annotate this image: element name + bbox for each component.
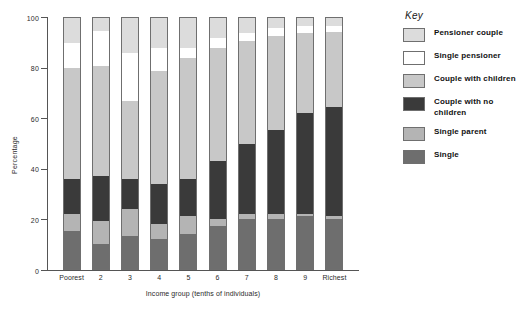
stacked-bar[interactable] bbox=[209, 17, 227, 270]
bar-slot bbox=[115, 17, 144, 270]
bar-segment bbox=[326, 32, 342, 107]
y-axis-title: Percentage bbox=[11, 136, 18, 174]
stacked-bar[interactable] bbox=[267, 17, 285, 270]
bar-segment bbox=[268, 28, 284, 36]
y-axis-tick-label: 80 bbox=[31, 65, 39, 72]
bar-segment bbox=[93, 221, 109, 244]
x-axis-line bbox=[47, 270, 359, 271]
bar-segment bbox=[93, 18, 109, 31]
y-axis-tick-label: 20 bbox=[31, 216, 39, 223]
bar-segment bbox=[93, 31, 109, 66]
legend-item[interactable]: Single parent bbox=[403, 127, 525, 141]
bar-segment bbox=[122, 236, 138, 269]
legend-item-label: Couple with children bbox=[434, 74, 516, 85]
x-axis-tick-label: 5 bbox=[174, 274, 203, 281]
bar-segment bbox=[297, 214, 313, 217]
bar-segment bbox=[122, 18, 138, 53]
bar-segment bbox=[326, 18, 342, 26]
bar-segment bbox=[239, 18, 255, 33]
bar-segment bbox=[151, 48, 167, 71]
x-axis-tick-label: 8 bbox=[261, 274, 290, 281]
bar-segment bbox=[122, 179, 138, 209]
stacked-bar[interactable] bbox=[325, 17, 343, 270]
legend-item[interactable]: Couple with children bbox=[403, 74, 525, 88]
bar-segment bbox=[239, 214, 255, 219]
legend-item[interactable]: Couple with no children bbox=[403, 97, 525, 118]
bar-segment bbox=[180, 179, 196, 217]
legend-item[interactable]: Pensioner couple bbox=[403, 28, 525, 42]
bar-segment bbox=[297, 33, 313, 113]
bar-segment bbox=[151, 184, 167, 224]
x-axis-tick-label: 7 bbox=[232, 274, 261, 281]
bar-segment bbox=[268, 130, 284, 214]
bar-segment bbox=[122, 209, 138, 237]
stacked-bar[interactable] bbox=[92, 17, 110, 270]
legend-items: Pensioner coupleSingle pensionerCouple w… bbox=[403, 28, 525, 164]
stacked-bar[interactable] bbox=[296, 17, 314, 270]
bar-segment bbox=[93, 66, 109, 176]
bar-segment bbox=[297, 113, 313, 213]
bar-segment bbox=[297, 18, 313, 26]
bar-segment bbox=[93, 244, 109, 269]
bar-slot bbox=[320, 17, 349, 270]
legend-item-label: Single parent bbox=[434, 127, 487, 138]
bar-segment bbox=[268, 18, 284, 28]
bar-segment bbox=[64, 179, 80, 214]
bar-segment bbox=[180, 234, 196, 269]
bar-segment bbox=[210, 48, 226, 161]
legend: Key Pensioner coupleSingle pensionerCoup… bbox=[403, 10, 525, 173]
stacked-bar[interactable] bbox=[63, 17, 81, 270]
bar-segment bbox=[326, 26, 342, 32]
bar-slot bbox=[86, 17, 115, 270]
bar-segment bbox=[239, 33, 255, 41]
bar-segment bbox=[180, 18, 196, 48]
stacked-bar[interactable] bbox=[121, 17, 139, 270]
bar-slot bbox=[232, 17, 261, 270]
bar-segment bbox=[239, 41, 255, 144]
bar-segment bbox=[64, 231, 80, 269]
y-axis-tick: 20 bbox=[41, 219, 47, 220]
y-axis-tick: 40 bbox=[41, 169, 47, 170]
legend-item[interactable]: Single bbox=[403, 150, 525, 164]
legend-item[interactable]: Single pensioner bbox=[403, 51, 525, 65]
bar-segment bbox=[239, 219, 255, 269]
bar-segment bbox=[180, 48, 196, 58]
bar-segment bbox=[326, 107, 342, 216]
bar-slot bbox=[291, 17, 320, 270]
bar-segment bbox=[93, 176, 109, 221]
bar-segment bbox=[239, 144, 255, 214]
bar-segment bbox=[210, 38, 226, 48]
legend-swatch bbox=[403, 51, 425, 65]
bar-segment bbox=[210, 18, 226, 38]
bar-slot bbox=[174, 17, 203, 270]
bar-segment bbox=[210, 161, 226, 219]
x-axis-tick-label: 2 bbox=[86, 274, 115, 281]
legend-swatch bbox=[403, 150, 425, 164]
y-axis-tick-label: 0 bbox=[35, 267, 39, 274]
legend-swatch bbox=[403, 127, 425, 141]
stacked-bar[interactable] bbox=[179, 17, 197, 270]
x-axis-tick-labels: Poorest23456789Richest bbox=[57, 274, 349, 281]
bar-segment bbox=[297, 216, 313, 269]
stacked-bar[interactable] bbox=[150, 17, 168, 270]
bar-segment bbox=[326, 219, 342, 269]
bar-segment bbox=[151, 239, 167, 269]
bar-segment bbox=[210, 219, 226, 227]
bar-segment bbox=[268, 219, 284, 269]
legend-item-label: Couple with no children bbox=[434, 97, 518, 118]
bar-segment bbox=[122, 53, 138, 101]
bar-segment bbox=[210, 226, 226, 269]
bar-slot bbox=[145, 17, 174, 270]
bar-segment bbox=[151, 71, 167, 184]
stacked-bar[interactable] bbox=[238, 17, 256, 270]
legend-title: Key bbox=[405, 10, 525, 21]
bar-segment bbox=[151, 224, 167, 239]
bar-segment bbox=[297, 26, 313, 34]
bar-segment bbox=[326, 216, 342, 219]
bar-slot bbox=[57, 17, 86, 270]
bar-segment bbox=[122, 101, 138, 179]
bar-segment bbox=[180, 58, 196, 178]
legend-swatch bbox=[403, 74, 425, 88]
x-axis-tick-label: 3 bbox=[115, 274, 144, 281]
legend-item-label: Single pensioner bbox=[434, 51, 501, 62]
